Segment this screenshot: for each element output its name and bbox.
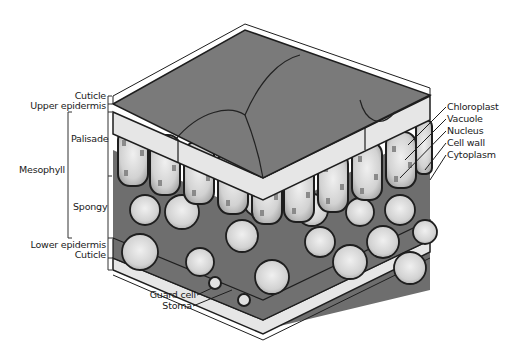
label-vacuole: Vacuole — [447, 113, 483, 124]
label-cuticle-bottom: Cuticle — [40, 249, 106, 260]
label-stoma: Stoma — [130, 300, 192, 311]
label-chloroplast: Chloroplast — [447, 101, 499, 112]
label-cytoplasm: Cytoplasm — [447, 149, 496, 160]
leaf-illustration — [0, 0, 516, 349]
label-palisade: Palisade — [71, 133, 108, 144]
label-spongy: Spongy — [73, 201, 107, 212]
leaf-cross-section-diagram: Cuticle Upper epidermis Palisade Mesophy… — [0, 0, 516, 349]
label-cell-wall: Cell wall — [447, 137, 485, 148]
label-nucleus: Nucleus — [447, 125, 483, 136]
label-upper-epidermis: Upper epidermis — [20, 100, 106, 111]
label-mesophyll: Mesophyll — [19, 164, 65, 175]
label-guard-cell: Guard cell — [130, 289, 196, 300]
